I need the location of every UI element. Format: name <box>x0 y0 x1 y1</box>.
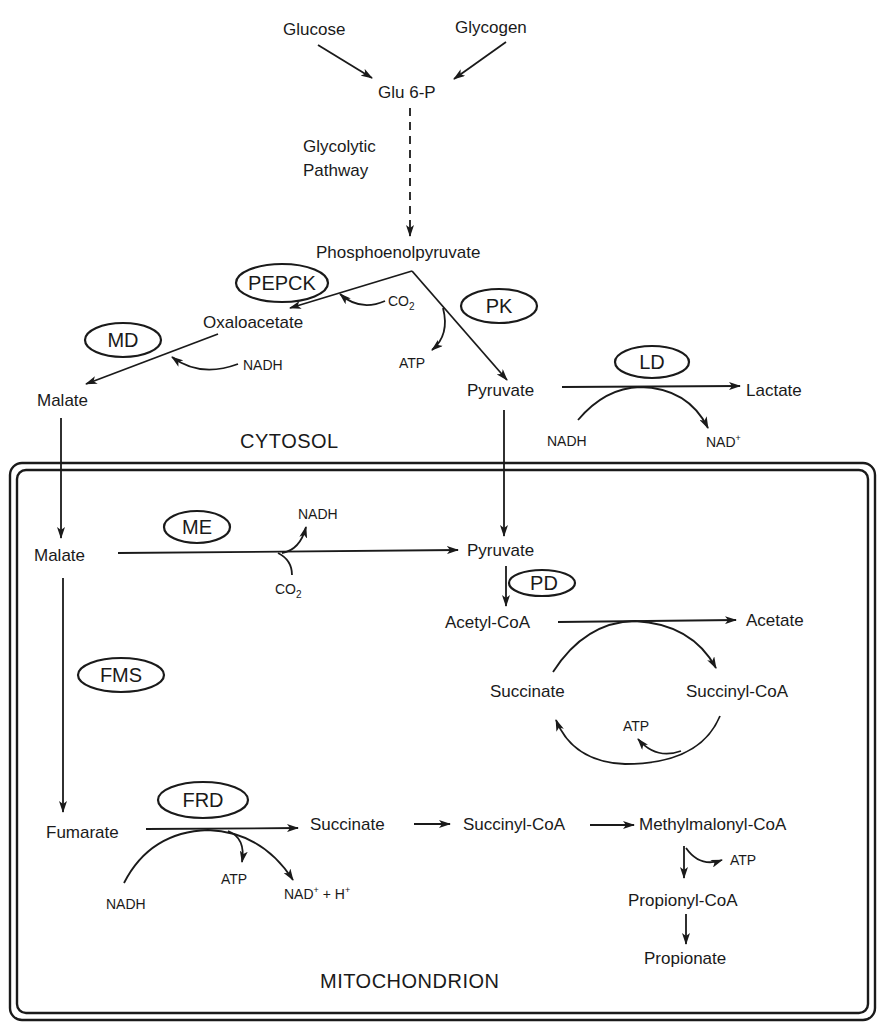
glycogen-label: Glycogen <box>455 18 527 37</box>
malate-cytosol-label: Malate <box>37 391 88 410</box>
pep-label: Phosphoenolpyruvate <box>316 243 480 262</box>
pk-atp-label: ATP <box>399 355 425 371</box>
propionate-label: Propionate <box>644 949 726 968</box>
glucose-label: Glucose <box>283 20 345 39</box>
ld-nadh-label: NADH <box>547 433 587 449</box>
enzyme-ld-label: LD <box>639 351 665 373</box>
ld-nad-label: NAD+ <box>706 433 741 450</box>
enzyme-pepck-label: PEPCK <box>248 272 316 294</box>
acetyl-coa-label: Acetyl-CoA <box>445 613 531 632</box>
mitochondrion-membrane <box>10 463 875 1020</box>
me-co2-arrow <box>278 553 292 575</box>
enzyme-md-label: MD <box>107 329 138 351</box>
malate-mito-label: Malate <box>34 546 85 565</box>
metabolic-pathway-diagram: Glucose Glycogen Glu 6-P Glycolytic Path… <box>0 0 883 1024</box>
enzyme-fms-label: FMS <box>100 664 142 686</box>
enzyme-me-label: ME <box>182 516 212 538</box>
ld-cofactor-arc <box>578 387 708 428</box>
mmcoa-atp-arrow <box>686 848 722 862</box>
glucose-to-g6p-arrow <box>318 45 372 78</box>
lactate-label: Lactate <box>746 381 802 400</box>
oxaloacetate-label: Oxaloacetate <box>203 313 303 332</box>
pyruvate-to-lactate-arrow <box>562 386 740 387</box>
succinate-cycle-label: Succinate <box>490 682 565 701</box>
frd-nadh-label: NADH <box>106 896 146 912</box>
me-nadh-arrow <box>282 527 306 553</box>
frd-nad-label: NAD+ + H+ <box>284 885 350 902</box>
glycolytic-label-line2: Pathway <box>303 161 369 180</box>
enzyme-pd-label: PD <box>530 572 558 594</box>
methylmalonyl-coa-label: Methylmalonyl-CoA <box>639 815 787 834</box>
acetate-label: Acetate <box>746 611 804 630</box>
enzyme-pk-label: PK <box>486 295 513 317</box>
me-nadh-label: NADH <box>298 506 338 522</box>
md-nadh-arrow <box>172 357 238 370</box>
mitochondrion-label: MITOCHONDRION <box>320 970 499 992</box>
pk-atp-arrow <box>432 308 445 350</box>
enzyme-frd-label: FRD <box>182 789 223 811</box>
md-nadh-label: NADH <box>243 357 283 373</box>
cycle-atp-arrow <box>638 739 681 754</box>
fumarate-to-succinate-arrow <box>146 828 298 829</box>
propionyl-coa-label: Propionyl-CoA <box>628 891 738 910</box>
succinate-label: Succinate <box>310 815 385 834</box>
frd-atp-label: ATP <box>221 871 247 887</box>
pepck-co2-label: CO2 <box>388 293 415 312</box>
cycle-atp-label: ATP <box>623 718 649 734</box>
pyruvate-cytosol-label: Pyruvate <box>467 381 534 400</box>
succinyl-coa-cycle-label: Succinyl-CoA <box>686 682 789 701</box>
frd-nadh-arc <box>124 830 293 883</box>
pyruvate-mito-label: Pyruvate <box>467 541 534 560</box>
fumarate-label: Fumarate <box>46 823 119 842</box>
me-co2-label: CO2 <box>275 581 302 600</box>
cytosol-label: CYTOSOL <box>240 430 339 452</box>
glu6p-label: Glu 6-P <box>378 83 436 102</box>
succinyl-coa-label: Succinyl-CoA <box>463 815 566 834</box>
glycolytic-label-line1: Glycolytic <box>303 137 376 156</box>
glycogen-to-g6p-arrow <box>454 42 506 79</box>
cycle-top-arc <box>553 621 716 672</box>
pep-to-pyruvate-arrow <box>412 271 507 380</box>
mmcoa-atp-label: ATP <box>730 852 756 868</box>
pepck-co2-arrow <box>340 294 385 305</box>
